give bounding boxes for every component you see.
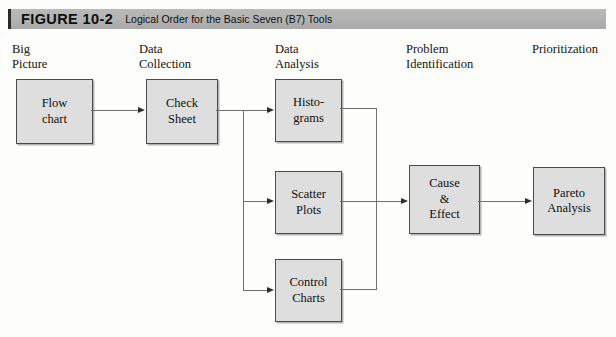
connector-controlcharts-out <box>340 289 377 290</box>
node-control-charts-label: Control Charts <box>289 275 327 306</box>
node-flow-chart[interactable]: Flow chart <box>16 79 93 144</box>
connector-merge-trunk <box>376 108 377 290</box>
connector-trunk-to-histograms <box>243 110 268 111</box>
arrow-head-checksheet-in <box>138 107 145 113</box>
connector-histograms-out <box>340 108 377 109</box>
node-scatter-plots-label: Scatter Plots <box>291 187 326 218</box>
stage-label-data-analysis: Data Analysis <box>275 42 319 71</box>
figure-10-2: FIGURE 10-2 Logical Order for the Basic … <box>0 0 616 337</box>
connector-trunk-to-controlcharts <box>243 290 268 291</box>
stage-label-prioritization: Prioritization <box>532 42 598 57</box>
connector-merge-to-causeeffect <box>376 201 402 202</box>
connector-causeeffect-to-pareto <box>478 201 526 202</box>
stage-label-problem-identification: Problem Identification <box>406 42 473 71</box>
figure-number: FIGURE 10-2 <box>21 11 113 27</box>
node-pareto-analysis-label: Pareto Analysis <box>547 186 591 217</box>
connector-trunk-to-scatterplots <box>243 201 268 202</box>
node-scatter-plots[interactable]: Scatter Plots <box>275 171 342 234</box>
arrow-head-causeeffect-in <box>401 198 408 204</box>
node-check-sheet-label: Check Sheet <box>166 96 198 127</box>
banner-accent-bar <box>8 9 11 29</box>
node-flow-chart-label: Flow chart <box>42 96 68 127</box>
arrow-head-controlcharts-in <box>267 287 274 293</box>
node-check-sheet[interactable]: Check Sheet <box>146 79 218 144</box>
node-control-charts[interactable]: Control Charts <box>275 259 342 322</box>
connector-flowchart-to-checksheet <box>91 110 139 111</box>
figure-caption: Logical Order for the Basic Seven (B7) T… <box>125 13 332 25</box>
node-histograms-label: Histo- grams <box>293 95 324 126</box>
connector-scatterplots-out <box>340 201 377 202</box>
stage-label-data-collection: Data Collection <box>139 42 191 71</box>
connector-checksheet-out <box>216 110 244 111</box>
figure-header-banner: FIGURE 10-2 Logical Order for the Basic … <box>8 9 606 29</box>
arrow-head-pareto-in <box>525 198 532 204</box>
node-cause-effect-label: Cause & Effect <box>429 176 460 223</box>
stage-label-big-picture: Big Picture <box>12 42 47 71</box>
node-cause-effect[interactable]: Cause & Effect <box>409 165 480 234</box>
node-histograms[interactable]: Histo- grams <box>275 79 342 142</box>
arrow-head-scatterplots-in <box>267 198 274 204</box>
node-pareto-analysis[interactable]: Pareto Analysis <box>533 167 605 235</box>
arrow-head-histograms-in <box>267 107 274 113</box>
